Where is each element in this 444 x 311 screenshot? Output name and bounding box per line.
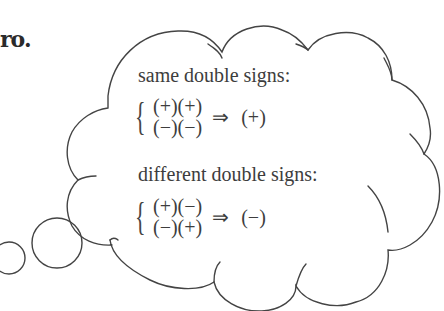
cloud-inner-arc bbox=[368, 186, 388, 232]
cloud-inner-arc bbox=[78, 176, 96, 180]
cloud-inner-arc bbox=[410, 134, 424, 154]
thought-cloud bbox=[0, 0, 444, 311]
same-signs-heading: same double signs: bbox=[138, 64, 290, 87]
left-brace-icon: { bbox=[135, 97, 143, 137]
different-signs-result: (−) bbox=[241, 206, 266, 229]
pair: (−)(+) bbox=[153, 217, 202, 238]
cloud-inner-arc bbox=[214, 262, 220, 282]
same-signs-pairs: (+)(+) (−)(−) bbox=[153, 96, 202, 138]
different-signs-pairs: (+)(−) (−)(+) bbox=[153, 196, 202, 238]
cloud-inner-arc bbox=[208, 44, 222, 58]
cloud-inner-arc bbox=[110, 238, 118, 240]
implies-arrow-icon: ⇒ bbox=[212, 105, 229, 129]
thought-bubble-medium bbox=[32, 218, 82, 268]
cloud-inner-arc bbox=[296, 264, 306, 286]
pair: (+)(−) bbox=[153, 196, 202, 217]
pair: (−)(−) bbox=[153, 117, 202, 138]
different-signs-heading: different double signs: bbox=[138, 163, 318, 186]
same-signs-result: (+) bbox=[241, 106, 266, 129]
same-signs-rule: { (+)(+) (−)(−) ⇒ (+) bbox=[135, 96, 266, 138]
left-brace-icon: { bbox=[135, 197, 143, 237]
different-signs-rule: { (+)(−) (−)(+) ⇒ (−) bbox=[135, 196, 266, 238]
thought-bubble-small bbox=[0, 242, 25, 274]
pair: (+)(+) bbox=[153, 96, 202, 117]
implies-arrow-icon: ⇒ bbox=[212, 205, 229, 229]
